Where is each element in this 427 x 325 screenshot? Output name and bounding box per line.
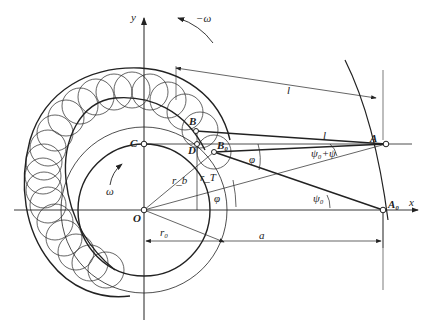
point-A0-label: A₀ (388, 199, 399, 210)
point-B0-label: B₀ (217, 140, 228, 151)
radius-r0-label: r₀ (160, 227, 168, 238)
length-l-arm-label: l (323, 130, 326, 141)
angle-phi-upper-label: φ (249, 154, 255, 165)
cam-diagram: y x −ω ω C O B D B₀ A A₀ l l a r_b r_T r… (0, 0, 427, 325)
point-C-label: C (130, 138, 137, 149)
neg-omega-label: −ω (196, 13, 211, 24)
length-a-label: a (259, 230, 265, 241)
length-l-top-label: l (287, 85, 290, 96)
angle-psi0-psi-label: ψ₀+ψ (311, 148, 336, 159)
follower-arc (345, 60, 388, 220)
y-axis-label: y (131, 12, 136, 23)
x-axis-label: x (409, 197, 414, 208)
angle-phi-lower-label: φ (214, 193, 220, 204)
omega-arrow (110, 164, 122, 185)
arm-A0-B0 (214, 152, 383, 210)
omega-label: ω (106, 186, 114, 197)
radius-rb-label: r_b (172, 175, 187, 186)
diagram-drawing (0, 0, 427, 325)
radius-rT-label: r_T (200, 172, 216, 183)
point-O-label: O (133, 213, 141, 224)
angle-psi0-label: ψ₀ (313, 193, 324, 204)
point-D-label: D (188, 145, 196, 156)
point-A-label: A (370, 133, 377, 144)
point-B-label: B (189, 116, 196, 127)
